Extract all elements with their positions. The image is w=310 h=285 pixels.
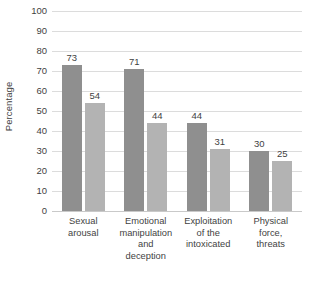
bar: 44 xyxy=(147,123,167,211)
bar-value-label: 54 xyxy=(89,91,100,101)
bar-chart: Percentage 1009080706050403020100 737144… xyxy=(0,0,310,285)
bar: 44 xyxy=(187,123,207,211)
y-axis-title-text: Percentage xyxy=(4,81,15,131)
y-tick-label: 70 xyxy=(36,66,47,76)
bar-value-label: 25 xyxy=(277,149,288,159)
bar: 25 xyxy=(272,161,292,211)
bar: 54 xyxy=(85,103,105,211)
y-axis-tick-labels: 1009080706050403020100 xyxy=(20,0,50,212)
bar-value-label: 30 xyxy=(254,139,265,149)
y-tick-label: 80 xyxy=(36,46,47,56)
bar: 31 xyxy=(210,149,230,211)
plot-area: 7371443054443125 xyxy=(52,11,302,212)
y-tick-label: 90 xyxy=(36,26,47,36)
bar: 71 xyxy=(124,69,144,211)
x-category-label-line: threats xyxy=(235,239,308,251)
bar: 73 xyxy=(62,65,82,211)
bar-value-label: 31 xyxy=(214,137,225,147)
y-tick-label: 100 xyxy=(31,6,47,16)
y-axis-title: Percentage xyxy=(0,0,18,212)
bar-value-label: 44 xyxy=(191,111,202,121)
x-category-label-line: deception xyxy=(110,251,183,263)
y-tick-label: 20 xyxy=(36,166,47,176)
bar-value-label: 71 xyxy=(129,57,140,67)
y-tick-label: 60 xyxy=(36,86,47,96)
y-tick-label: 10 xyxy=(36,186,47,196)
bar-value-label: 44 xyxy=(152,111,163,121)
y-tick-label: 50 xyxy=(36,106,47,116)
x-axis-category-labels: SexualarousalEmotionalmanipulationanddec… xyxy=(52,216,302,285)
x-category-label: Physicalforce,threats xyxy=(235,216,308,251)
x-category-label-line: Physical xyxy=(235,216,308,228)
bar: 30 xyxy=(249,151,269,211)
y-tick-label: 0 xyxy=(42,206,47,216)
y-tick-label: 40 xyxy=(36,126,47,136)
x-category-label-line: force, xyxy=(235,228,308,240)
bars-container: 7371443054443125 xyxy=(52,11,302,212)
bar-value-label: 73 xyxy=(66,53,77,63)
y-tick-label: 30 xyxy=(36,146,47,156)
